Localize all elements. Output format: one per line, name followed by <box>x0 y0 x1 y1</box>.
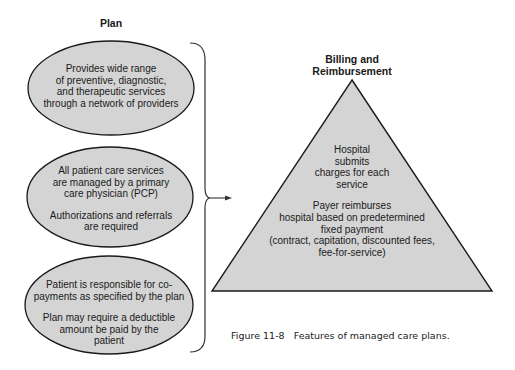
billing-heading: Billing and Reimbursement <box>292 53 412 77</box>
plan-item-2-text: All patient care services are managed by… <box>28 165 194 233</box>
figure-caption-text: Features of managed care plans. <box>294 330 450 341</box>
arrow-head-icon <box>225 196 232 201</box>
plan-item-3-text: Patient is responsible for co- payments … <box>24 279 194 347</box>
plan-heading: Plan <box>80 17 142 29</box>
plan-item-1-text: Provides wide range of preventive, diagn… <box>28 63 194 109</box>
billing-text: Hospital submits charges for each servic… <box>262 144 442 258</box>
figure-label: Figure 11-8 <box>231 330 285 341</box>
figure-caption: Figure 11-8 Features of managed care pla… <box>225 319 450 341</box>
